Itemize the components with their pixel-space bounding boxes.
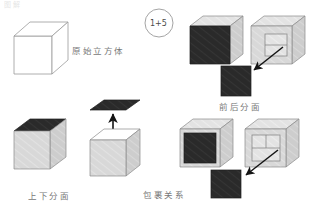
diagram-vector-layer [0, 0, 322, 211]
original-cube-figure [14, 22, 68, 74]
top-bottom-open-cube [90, 129, 140, 176]
label-front-back-faces: 前后分面 [219, 100, 261, 112]
badge-circle-label: 1+5 [150, 19, 167, 28]
front-back-detached-face [221, 66, 251, 96]
label-top-bottom-faces: 上下分面 [28, 189, 70, 201]
front-back-solid-cube [190, 16, 243, 64]
wrapping-detached-face [211, 170, 241, 198]
top-bottom-solid-cube [14, 119, 66, 169]
top-bottom-detached-face [90, 100, 140, 110]
diagram-canvas: 图解 [0, 0, 322, 211]
wrapping-solid-cube [180, 119, 233, 167]
label-original-cube: 原始立方体 [72, 44, 125, 56]
front-back-open-cube [251, 16, 305, 64]
wrapping-wireframe-cube [245, 119, 299, 167]
label-wrapping-relation: 包裹关系 [143, 188, 185, 200]
